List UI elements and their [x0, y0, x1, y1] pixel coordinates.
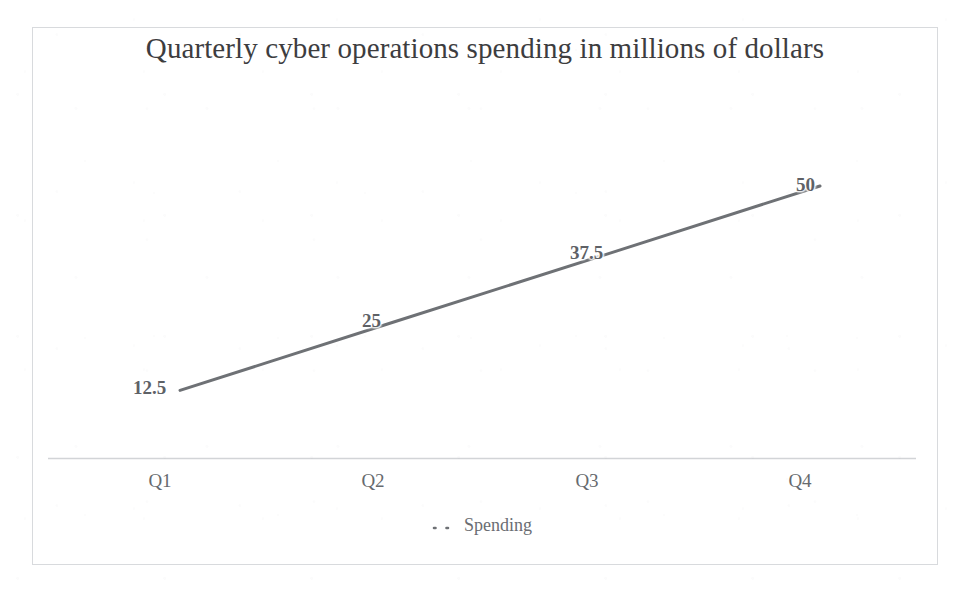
series-line-spending: [180, 186, 820, 390]
legend-label-spending: Spending: [464, 515, 532, 535]
x-tick-label-q1: Q1: [100, 470, 220, 492]
data-label-q4: 50: [796, 174, 815, 195]
data-label-q3: 37.5: [570, 242, 603, 263]
plot-svg: [0, 0, 964, 592]
x-tick-label-q3: Q3: [527, 470, 647, 492]
chart-title: Quarterly cyber operations spending in m…: [110, 30, 860, 66]
data-label-q1: 12.5: [133, 377, 166, 398]
chart-legend: Spending: [0, 515, 964, 535]
x-tick-label-q2: Q2: [313, 470, 433, 492]
x-tick-label-q4: Q4: [740, 470, 860, 492]
plot-area: [0, 0, 964, 592]
data-label-q2: 25: [362, 310, 381, 331]
legend-marker-icon: [432, 520, 458, 532]
